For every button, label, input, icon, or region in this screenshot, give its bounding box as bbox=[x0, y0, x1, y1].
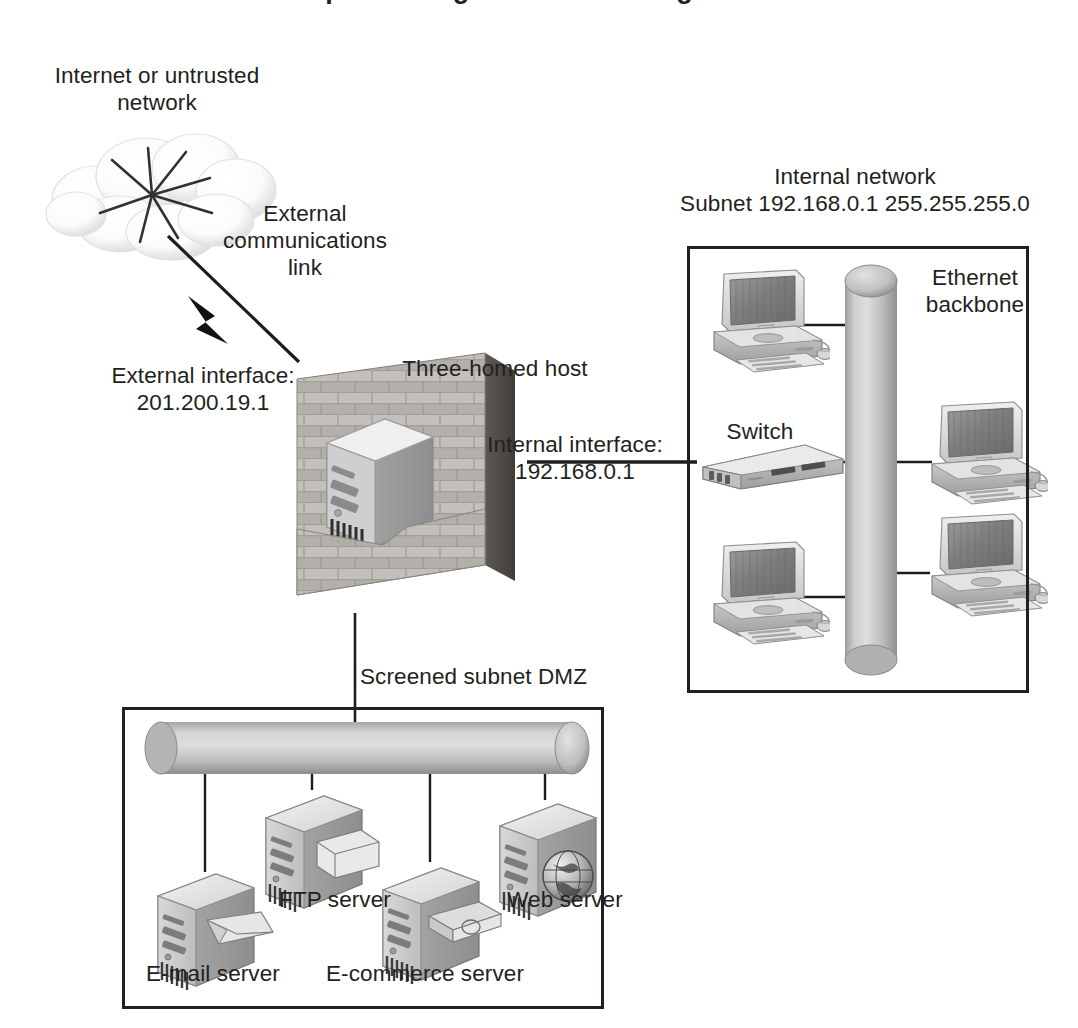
ftp-server-label: FTP server bbox=[255, 886, 415, 913]
lightning-bolt-icon bbox=[188, 296, 228, 344]
external-interface-address: 201.200.19.1 bbox=[88, 389, 318, 416]
ecommerce-server-label: E-commerce server bbox=[290, 960, 560, 987]
internal-network-subnet: Subnet 192.168.0.1 255.255.255.0 bbox=[668, 190, 1042, 217]
firewall-label: Three-homed host bbox=[370, 355, 620, 382]
ethernet-backbone-label: Ethernet backbone bbox=[900, 264, 1050, 318]
web-server-label: Web server bbox=[480, 886, 650, 913]
email-server-label: E-mail server bbox=[118, 960, 308, 987]
cloud-label: Internet or untrusted network bbox=[22, 62, 292, 116]
network-diagram-canvas: Implementing a Firewall Configuration bbox=[0, 0, 1078, 1028]
internal-interface-address: 192.168.0.1 bbox=[460, 458, 690, 485]
dmz-title: Screened subnet DMZ bbox=[360, 663, 660, 690]
external-link-label: External communications link bbox=[196, 200, 414, 281]
external-interface-label: External interface: bbox=[88, 362, 318, 389]
internal-interface-label: Internal interface: bbox=[460, 431, 690, 458]
internal-network-title: Internal network bbox=[688, 163, 1022, 190]
switch-label: Switch bbox=[700, 418, 820, 445]
